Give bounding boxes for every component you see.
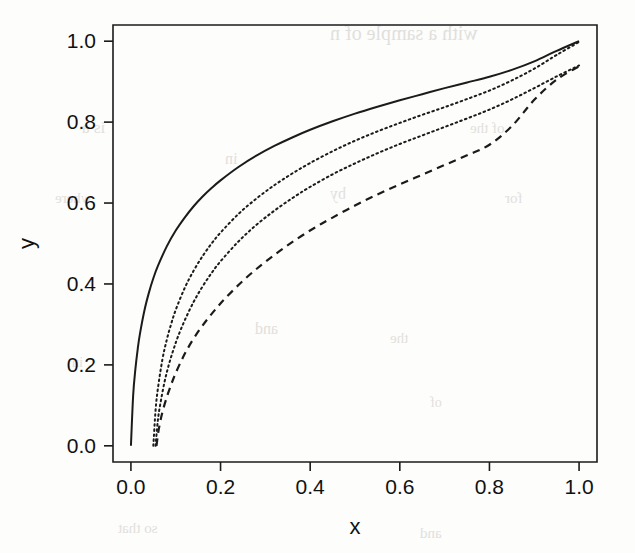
figure-canvas: with a sample of nis ainbywhereof thefor… — [0, 0, 635, 553]
y-tick-label-1: 0.2 — [67, 353, 96, 376]
y-tick-label-5: 1.0 — [67, 29, 96, 52]
x-axis-title: x — [350, 514, 361, 539]
x-tick-label-3: 0.6 — [385, 475, 414, 498]
y-tick-label-4: 0.8 — [67, 110, 96, 133]
y-axis-title: y — [14, 238, 39, 249]
x-tick-label-5: 1.0 — [564, 475, 593, 498]
y-tick-label-2: 0.4 — [67, 272, 97, 295]
y-tick-label-0: 0.0 — [67, 434, 96, 457]
curves-group — [131, 41, 579, 446]
x-tick-label-0: 0.0 — [116, 475, 145, 498]
curve-4-dashed — [156, 66, 579, 446]
plot-frame — [113, 25, 597, 462]
curve-2-dotted — [153, 42, 579, 446]
plot-svg: 0.00.20.40.60.81.00.00.20.40.60.81.0xy — [0, 0, 635, 553]
y-tick-label-3: 0.6 — [67, 191, 96, 214]
x-tick-label-2: 0.4 — [296, 475, 326, 498]
axes-group — [104, 25, 597, 471]
curve-1-solid — [131, 41, 579, 446]
x-tick-label-4: 0.8 — [475, 475, 504, 498]
x-tick-label-1: 0.2 — [206, 475, 235, 498]
